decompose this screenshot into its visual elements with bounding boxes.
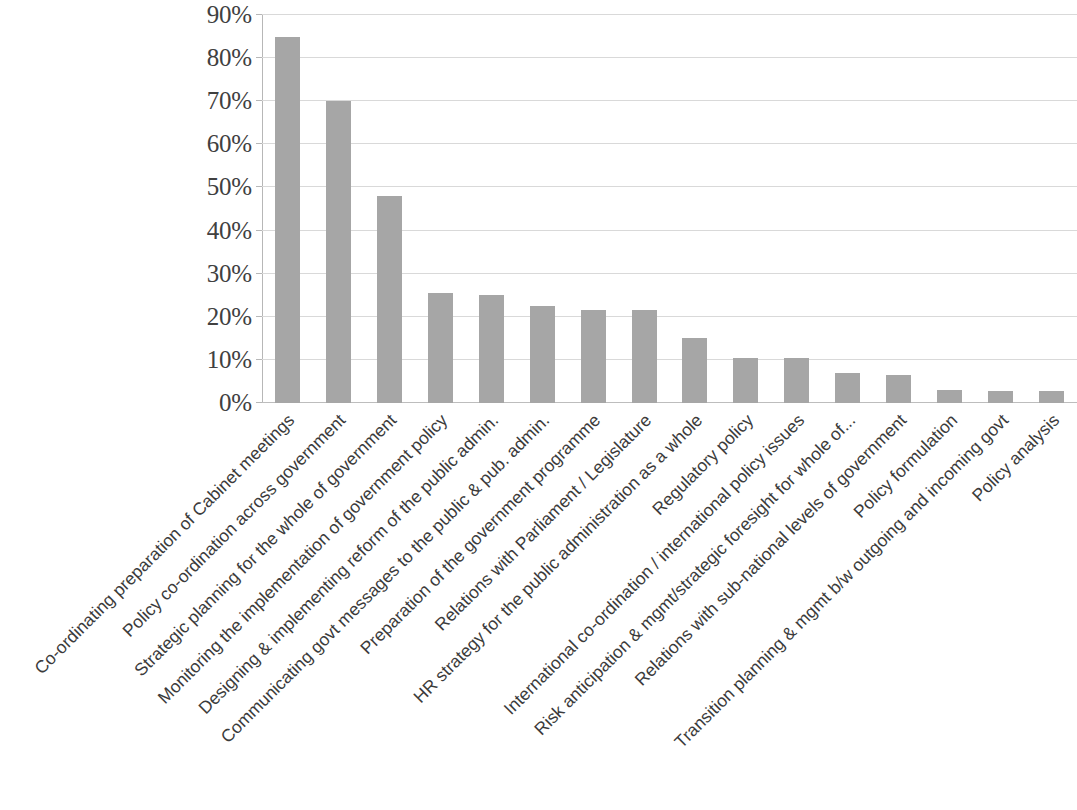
y-axis-tick-label: 80% <box>180 45 252 70</box>
bar[interactable] <box>530 306 555 403</box>
bar[interactable] <box>632 310 657 403</box>
bar[interactable] <box>886 375 911 403</box>
bar[interactable] <box>784 358 809 403</box>
x-axis-labels: Co-ordinating preparation of Cabinet mee… <box>0 402 1077 810</box>
plot-area <box>262 14 1077 402</box>
bar[interactable] <box>581 310 606 403</box>
y-axis-tick-label: 10% <box>180 346 252 371</box>
bar[interactable] <box>377 196 402 403</box>
y-axis-tick-label: 70% <box>180 88 252 113</box>
y-axis-tick-label: 50% <box>180 174 252 199</box>
bar[interactable] <box>326 101 351 403</box>
y-axis-tick-label: 20% <box>180 303 252 328</box>
x-axis-tick-label: Transition planning & mgmt b/w outgoing … <box>672 410 1013 751</box>
y-axis-tick-label: 30% <box>180 260 252 285</box>
bar[interactable] <box>733 358 758 403</box>
y-axis-tick-label: 40% <box>180 217 252 242</box>
bar[interactable] <box>835 373 860 403</box>
bar[interactable] <box>275 37 300 403</box>
bar-chart: 0%10%20%30%40%50%60%70%80%90% Co-ordinat… <box>0 0 1077 810</box>
y-axis-tick-label: 90% <box>180 2 252 27</box>
y-axis-tick-label: 60% <box>180 131 252 156</box>
bar[interactable] <box>682 338 707 403</box>
bar[interactable] <box>428 293 453 403</box>
y-axis: 0%10%20%30%40%50%60%70%80%90% <box>180 0 252 412</box>
bar-series <box>262 14 1077 403</box>
bar[interactable] <box>479 295 504 403</box>
